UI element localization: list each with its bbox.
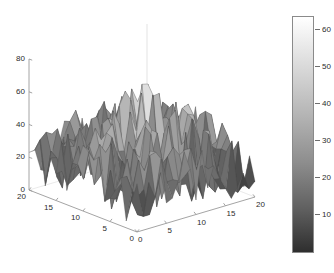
x-tick-label-0: 0 [138, 235, 142, 244]
x-tick-label-15: 15 [227, 209, 236, 218]
y-tick-label-15: 15 [44, 203, 53, 212]
z-tick-label-20: 20 [16, 152, 25, 161]
y-tick-label-20: 20 [17, 192, 26, 201]
y-tick-label-5: 5 [103, 224, 107, 233]
colorbar-label-40: 40 [322, 99, 331, 108]
colorbar-tick-10 [315, 214, 320, 215]
z-tick-label-80: 80 [16, 54, 25, 63]
colorbar-label-10: 10 [322, 210, 331, 219]
colorbar-label-60: 60 [322, 25, 331, 34]
colorbar-tick-30 [315, 140, 320, 141]
figure-3d-surface-plot: 80 60 40 20 0 20 15 10 5 0 0 5 10 15 20 … [0, 0, 334, 273]
z-tick-label-60: 60 [16, 87, 25, 96]
colorbar-label-30: 30 [322, 136, 331, 145]
colorbar-label-50: 50 [322, 62, 331, 71]
x-tick-label-20: 20 [256, 200, 265, 209]
y-tick-label-10: 10 [71, 213, 80, 222]
y-tick-label-0: 0 [130, 234, 134, 243]
x-tick-label-10: 10 [197, 218, 206, 227]
colorbar-tick-60 [315, 29, 320, 30]
x-tick-label-5: 5 [168, 226, 172, 235]
colorbar-gradient [292, 16, 314, 253]
surface-mesh [29, 84, 255, 221]
colorbar: 60 50 40 30 20 10 [292, 16, 314, 253]
colorbar-tick-50 [315, 66, 320, 67]
colorbar-tick-20 [315, 177, 320, 178]
colorbar-tick-40 [315, 103, 320, 104]
z-tick-label-40: 40 [16, 120, 25, 129]
colorbar-label-20: 20 [322, 173, 331, 182]
